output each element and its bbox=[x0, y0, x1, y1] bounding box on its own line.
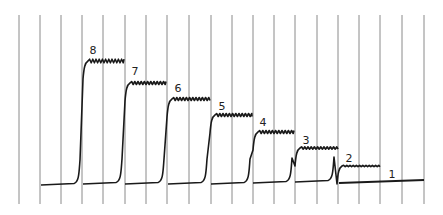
trace-label-8: 8 bbox=[90, 44, 97, 57]
trace-label-3: 3 bbox=[303, 134, 310, 147]
contraction-trace-5 bbox=[168, 114, 252, 185]
trace-label-2: 2 bbox=[346, 152, 353, 165]
trace-label-5: 5 bbox=[219, 100, 226, 113]
trace-labels: 87654321 bbox=[90, 44, 396, 181]
trace-label-4: 4 bbox=[260, 116, 267, 129]
trace-label-7: 7 bbox=[132, 65, 139, 78]
trace-label-6: 6 bbox=[175, 82, 182, 95]
contraction-trace-1 bbox=[339, 180, 424, 183]
trace-label-1: 1 bbox=[389, 168, 396, 181]
kymograph-diagram: 87654321 bbox=[0, 0, 443, 215]
